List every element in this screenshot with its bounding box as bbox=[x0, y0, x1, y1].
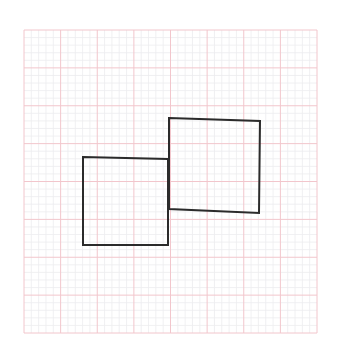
graph-paper-diagram bbox=[0, 0, 337, 360]
left-square bbox=[83, 157, 168, 245]
